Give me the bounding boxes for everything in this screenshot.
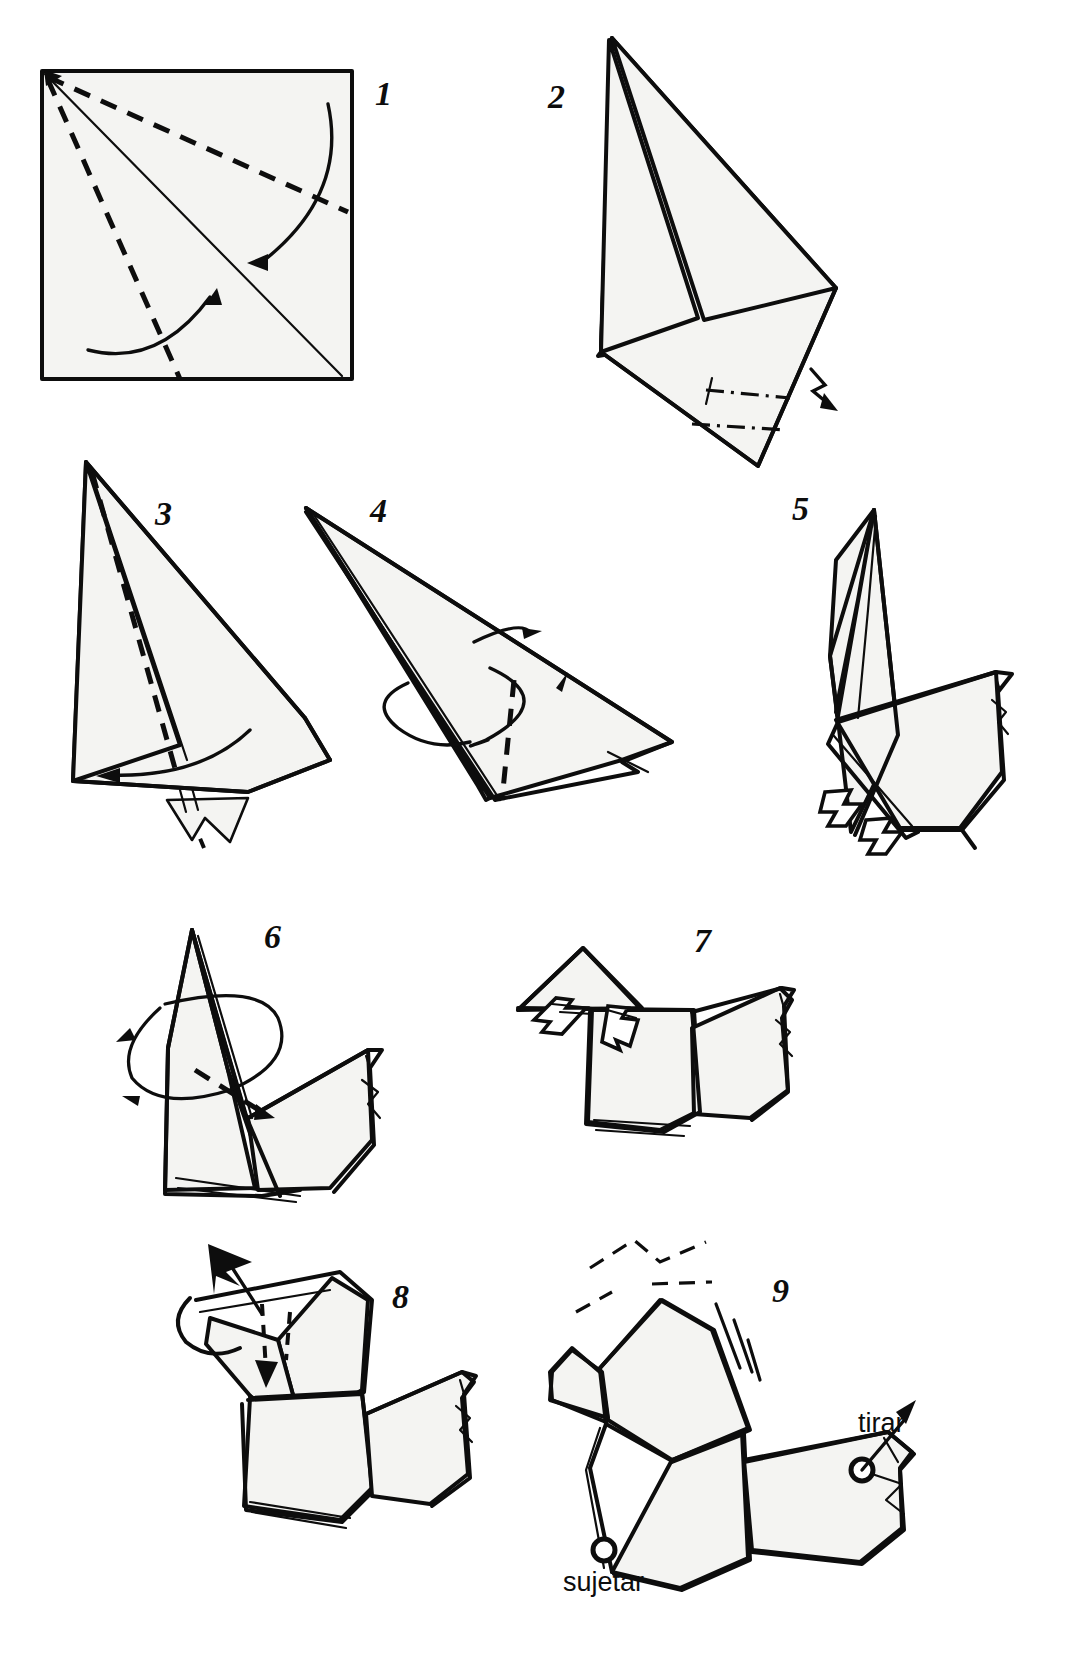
step9-neck xyxy=(612,1432,748,1588)
step-number-1: 1 xyxy=(375,75,392,112)
step7-head-flap xyxy=(518,948,640,1010)
step-2-figure: 2 xyxy=(547,38,838,466)
step-number-2: 2 xyxy=(547,78,565,115)
step-4-figure: 4 xyxy=(306,492,672,800)
step-6-figure: 6 xyxy=(116,918,382,1202)
caption-sujetar: sujetar xyxy=(563,1567,644,1597)
step4-arrow-top-head xyxy=(522,628,542,639)
step6-neck xyxy=(165,930,255,1190)
step3-bottom-pleat xyxy=(167,798,248,842)
caption-tirar: tirar xyxy=(858,1408,905,1438)
origami-diagram-svg: 1 2 xyxy=(0,0,1091,1667)
hold-grip-hole xyxy=(593,1539,615,1561)
step5-bottom-edge xyxy=(900,830,975,848)
step-7-figure: 7 xyxy=(518,922,794,1136)
step4-main-face xyxy=(306,508,672,798)
step9-motion-dash-top xyxy=(590,1240,706,1268)
lightning-arrow-head xyxy=(820,393,838,411)
step6-rotation-head-a xyxy=(116,1028,136,1042)
step8-neck xyxy=(244,1392,372,1520)
step-number-3: 3 xyxy=(154,495,172,532)
step-number-8: 8 xyxy=(392,1278,409,1315)
step-number-9: 9 xyxy=(772,1272,789,1309)
step9-motion-dash-left xyxy=(576,1292,612,1312)
step9-motion-dash-mid xyxy=(652,1282,712,1284)
step9-head xyxy=(600,1300,748,1460)
origami-diagram-page: 1 2 xyxy=(0,0,1091,1667)
step-1-figure: 1 xyxy=(42,70,392,379)
step-number-6: 6 xyxy=(264,918,281,955)
step6-rotation-head-b xyxy=(122,1096,140,1106)
step-number-4: 4 xyxy=(369,492,387,529)
step-8-figure: 8 xyxy=(178,1244,476,1528)
step-number-5: 5 xyxy=(792,490,809,527)
step9-motion-line-c xyxy=(748,1340,760,1380)
step-5-figure: 5 xyxy=(792,490,1012,854)
step-3-figure: 3 xyxy=(73,462,330,848)
step-number-7: 7 xyxy=(694,922,713,959)
